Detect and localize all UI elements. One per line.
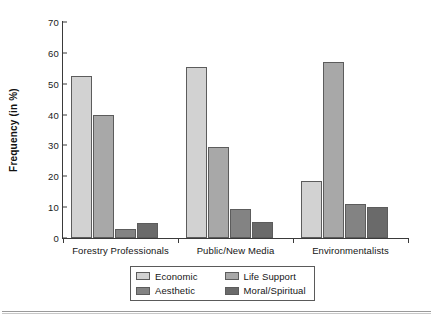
bar-aesthetic xyxy=(115,229,136,238)
bar-life-support xyxy=(323,62,344,239)
y-axis-tick-label: 10 xyxy=(48,202,63,213)
bar-moral-spiritual xyxy=(367,207,388,238)
bar-group xyxy=(301,22,388,238)
y-axis-tick-label: 0 xyxy=(54,233,63,244)
legend-swatch-aesthetic xyxy=(136,287,150,295)
bar-economic xyxy=(186,67,207,238)
legend-item-aesthetic: Aesthetic xyxy=(136,285,221,296)
plot-area: 010203040506070 xyxy=(63,22,408,238)
legend-item-moral-spiritual: Moral/Spiritual xyxy=(225,285,310,296)
legend-label-life-support: Life Support xyxy=(244,271,296,282)
legend-label-moral-spiritual: Moral/Spiritual xyxy=(244,285,306,296)
bar-aesthetic xyxy=(345,204,366,238)
y-axis-tick-label: 70 xyxy=(48,17,63,28)
y-axis-tick: 50 xyxy=(48,78,63,89)
y-axis-tick-label: 30 xyxy=(48,140,63,151)
bar-group xyxy=(186,22,273,238)
legend-label-aesthetic: Aesthetic xyxy=(155,285,195,296)
y-axis-tick: 10 xyxy=(48,202,63,213)
bar-aesthetic xyxy=(230,209,251,238)
legend-swatch-life-support xyxy=(225,272,239,280)
x-axis-tick-mark xyxy=(293,238,294,243)
y-axis-tick: 40 xyxy=(48,109,63,120)
y-axis-tick: 30 xyxy=(48,140,63,151)
y-axis-tick: 0 xyxy=(54,233,63,244)
page-divider-rule xyxy=(2,311,431,312)
y-axis-tick: 60 xyxy=(48,47,63,58)
page-divider-rule-shadow xyxy=(2,313,431,314)
bar-group xyxy=(71,22,158,238)
y-axis-tick-mark xyxy=(63,145,67,146)
x-axis-tick-mark xyxy=(63,238,64,243)
bar-chart-figure: Frequency (in %) 010203040506070 Forestr… xyxy=(0,0,433,325)
chart-legend: Economic Life Support Aesthetic Moral/Sp… xyxy=(130,266,315,301)
legend-item-life-support: Life Support xyxy=(225,271,310,282)
legend-swatch-economic xyxy=(136,272,150,280)
bar-life-support xyxy=(93,115,114,238)
y-axis-tick: 70 xyxy=(48,17,63,28)
y-axis-tick-label: 60 xyxy=(48,47,63,58)
bar-life-support xyxy=(208,147,229,238)
bar-economic xyxy=(301,181,322,238)
y-axis-tick-mark xyxy=(63,207,67,208)
y-axis-title: Frequency (in %) xyxy=(8,88,19,172)
legend-label-economic: Economic xyxy=(155,271,198,282)
bar-economic xyxy=(71,76,92,238)
x-axis-line xyxy=(62,238,409,239)
x-axis-category-label: Environmentalists xyxy=(312,245,389,256)
y-axis-tick-mark xyxy=(63,176,67,177)
y-axis-tick-label: 50 xyxy=(48,78,63,89)
bar-moral-spiritual xyxy=(252,222,273,238)
y-axis-tick-mark xyxy=(63,114,67,115)
y-axis-tick: 20 xyxy=(48,171,63,182)
x-axis-tick-mark xyxy=(408,238,409,243)
y-axis-tick-label: 20 xyxy=(48,171,63,182)
x-axis-category-label: Forestry Professionals xyxy=(72,245,169,256)
y-axis-tick-label: 40 xyxy=(48,109,63,120)
legend-item-economic: Economic xyxy=(136,271,221,282)
legend-swatch-moral-spiritual xyxy=(225,287,239,295)
y-axis-tick-mark xyxy=(63,22,67,23)
y-axis-tick-mark xyxy=(63,52,67,53)
bar-moral-spiritual xyxy=(137,223,158,238)
y-axis-tick-mark xyxy=(63,83,67,84)
x-axis-category-label: Public/New Media xyxy=(197,245,275,256)
x-axis-tick-mark xyxy=(178,238,179,243)
